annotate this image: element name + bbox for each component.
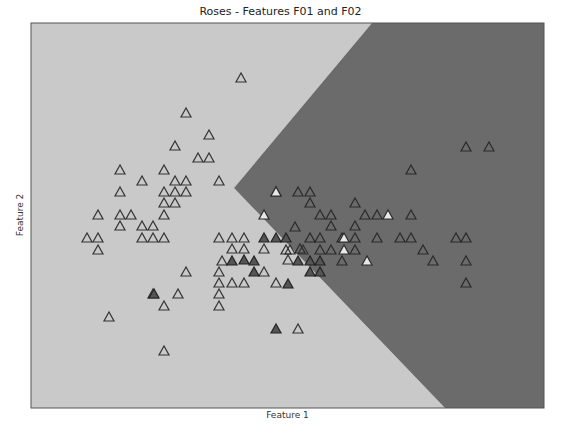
y-axis-label: Feature 2 — [15, 194, 25, 237]
x-axis-label: Feature 1 — [31, 410, 544, 420]
scatter-plot — [0, 0, 561, 434]
